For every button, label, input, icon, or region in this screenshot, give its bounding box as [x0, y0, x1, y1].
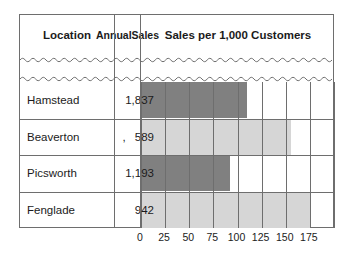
x-axis-tick-label: 125: [252, 231, 270, 243]
x-axis-tick-label: 0: [137, 231, 143, 243]
table-row: Fenglade942: [20, 192, 333, 229]
table-header-row: Location Annual Sales Sales per 1,000 Cu…: [20, 15, 333, 56]
column-separator-1: [114, 15, 115, 227]
cell-annual-sales-value: 942: [135, 204, 154, 216]
x-axis-tick-label: 100: [228, 231, 246, 243]
wavy-break-line-top: [20, 56, 333, 63]
wavy-break-line-bottom: [20, 75, 333, 82]
table-body: Hamstead1,837Beaverton,589Picsworth1,193…: [20, 82, 333, 228]
cell-location: Hamstead: [20, 82, 114, 119]
x-axis-tick-label: 175: [300, 231, 318, 243]
cell-annual-sales: 1,837: [115, 82, 158, 119]
column-header-sales-per-1000-customers: Sales per 1,000 Customers: [141, 15, 335, 56]
cell-location: Beaverton: [20, 119, 114, 156]
x-axis-tick-label: 25: [158, 231, 170, 243]
table-row: Hamstead1,837: [20, 82, 333, 119]
column-header-annual-sales: Annual Sales: [115, 15, 140, 56]
table-break-band: [20, 56, 333, 82]
column-separator-2: [140, 15, 141, 227]
screenshot-canvas: Location Annual Sales Sales per 1,000 Cu…: [0, 0, 350, 262]
cell-annual-sales: 1,193: [115, 155, 158, 192]
chart-gridline: [334, 82, 335, 228]
cell-location: Fenglade: [20, 192, 114, 229]
cell-annual-sales: 942: [115, 192, 158, 229]
cell-annual-sales-prefix: ,: [123, 131, 126, 143]
cell-annual-sales-value: 589: [135, 131, 154, 143]
sales-table: Location Annual Sales Sales per 1,000 Cu…: [19, 14, 334, 228]
table-row: Picsworth1,193: [20, 155, 333, 192]
cell-location: Picsworth: [20, 155, 114, 192]
cell-annual-sales: ,589: [115, 119, 158, 156]
x-axis-tick-label: 150: [276, 231, 294, 243]
chart-x-axis-labels: 0255075100125150175: [0, 231, 350, 249]
x-axis-tick-label: 50: [182, 231, 194, 243]
x-axis-tick-label: 75: [207, 231, 219, 243]
table-row: Beaverton,589: [20, 119, 333, 156]
